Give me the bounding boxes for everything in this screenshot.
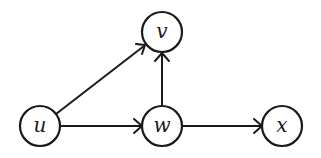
node-u: u <box>20 106 60 146</box>
node-label-w: w <box>153 113 170 137</box>
node-w: w <box>142 106 182 146</box>
node-v: v <box>142 12 182 52</box>
edge-u-v <box>56 44 145 114</box>
node-label-x: x <box>276 113 287 137</box>
edge-w-v <box>155 53 169 106</box>
edge-w-x <box>182 119 262 133</box>
node-x: x <box>262 106 302 146</box>
node-label-u: u <box>34 113 47 137</box>
node-label-v: v <box>156 19 168 43</box>
graph-canvas: u v w x <box>0 0 321 158</box>
edge-u-w <box>60 119 142 133</box>
